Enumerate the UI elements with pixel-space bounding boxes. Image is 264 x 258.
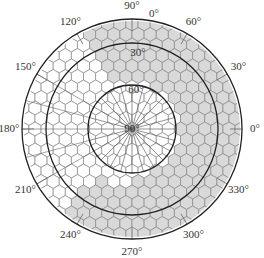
hex-cell — [193, 28, 205, 42]
hex-cell — [17, 80, 29, 94]
hex-cell — [150, 227, 162, 241]
azimuth-label-60: 60° — [186, 15, 201, 27]
azimuth-label-120: 120° — [60, 15, 81, 27]
hex-cell — [11, 133, 23, 147]
hex-cell — [235, 164, 247, 178]
elevation-label-30: 30° — [130, 46, 145, 58]
azimuth-label-30: 30° — [231, 60, 246, 72]
hex-cell — [47, 196, 59, 210]
azimuth-label-0: 0° — [250, 122, 260, 134]
hex-cell — [235, 80, 247, 94]
elevation-label-90: 90° — [124, 122, 139, 134]
hex-cell — [59, 28, 71, 42]
azimuth-label-240: 240° — [60, 228, 81, 240]
hex-cell — [205, 196, 217, 210]
azimuth-label-300: 300° — [183, 228, 204, 240]
azimuth-label-270: 270° — [122, 245, 143, 257]
azimuth-label-330: 330° — [228, 183, 249, 195]
azimuth-label-150: 150° — [15, 60, 36, 72]
hex-cell — [241, 133, 253, 147]
hex-cell — [102, 227, 114, 241]
azimuth-label-180: 180° — [0, 122, 19, 134]
hex-cell — [17, 164, 29, 178]
elevation-label-60: 60° — [128, 83, 143, 95]
polar-hex-diagram: 90°60°30°0°330°300°270°240°210°180°150°1… — [0, 0, 264, 258]
azimuth-label-210: 210° — [15, 183, 36, 195]
azimuth-label-90: 90° — [124, 0, 139, 11]
elevation-label-0: 0° — [149, 7, 159, 19]
